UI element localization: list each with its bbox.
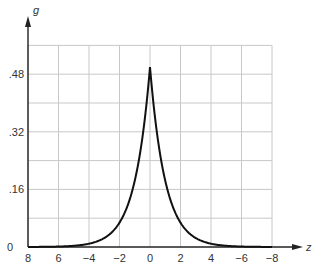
- y-tick-label: 0: [7, 241, 13, 253]
- axes: g z: [25, 4, 312, 253]
- x-axis-arrow-icon: [292, 244, 303, 250]
- x-tick-label: −4: [83, 252, 96, 264]
- x-tick-label: 2: [177, 252, 183, 264]
- x-axis-label: z: [305, 241, 312, 253]
- y-axis-arrow-icon: [25, 16, 31, 27]
- y-tick-label: .16: [9, 183, 24, 195]
- x-tick-label: 4: [208, 252, 214, 264]
- x-tick-label: 0: [147, 252, 153, 264]
- x-tick-labels: 86−4−2024−6−8: [25, 252, 278, 264]
- chart: g z 86−4−2024−6−8 0.16.32.48: [0, 0, 316, 265]
- x-tick-label: −2: [113, 252, 126, 264]
- y-axis-label: g: [33, 4, 40, 16]
- y-tick-label: .48: [9, 68, 24, 80]
- y-tick-labels: 0.16.32.48: [7, 68, 24, 253]
- x-tick-label: 6: [55, 252, 61, 264]
- y-tick-label: .32: [9, 126, 24, 138]
- x-tick-label: −6: [235, 252, 248, 264]
- x-tick-label: −8: [266, 252, 279, 264]
- x-tick-label: 8: [25, 252, 31, 264]
